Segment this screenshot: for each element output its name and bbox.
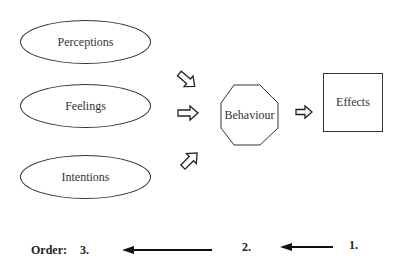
- effects-node: Effects: [323, 73, 383, 132]
- arrow-right-icon: [178, 106, 198, 120]
- feelings-node: Feelings: [20, 84, 151, 128]
- order-arrow-short-icon: [280, 243, 333, 251]
- behaviour-label: Behaviour: [225, 108, 275, 123]
- arrow-down-right-icon: [175, 68, 199, 92]
- intentions-label: Intentions: [62, 170, 110, 185]
- perceptions-node: Perceptions: [20, 20, 151, 64]
- behaviour-node: Behaviour: [221, 85, 278, 145]
- order-step-3: 3.: [80, 243, 89, 258]
- intentions-node: Intentions: [20, 155, 151, 199]
- perceptions-label: Perceptions: [58, 35, 114, 50]
- effects-label: Effects: [336, 95, 370, 110]
- order-step-2: 2.: [242, 240, 251, 255]
- arrow-up-right-icon: [178, 148, 202, 172]
- arrow-right-icon: [296, 106, 312, 118]
- feelings-label: Feelings: [65, 99, 106, 114]
- order-arrow-long-icon: [122, 246, 212, 254]
- order-step-1: 1.: [349, 238, 358, 253]
- order-label: Order:: [31, 243, 67, 258]
